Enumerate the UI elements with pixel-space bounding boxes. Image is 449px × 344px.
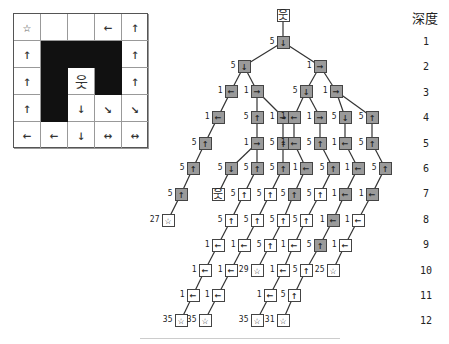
- arrow-icon: →: [254, 138, 261, 149]
- node-cost: 5: [159, 189, 173, 198]
- node-cost: 1: [272, 240, 286, 249]
- tree-node: ←: [352, 214, 365, 227]
- arrow-icon: ←: [228, 265, 235, 276]
- node-cost: 1: [222, 240, 236, 249]
- tree-node: ←: [212, 111, 225, 124]
- arrow-icon: ↓: [280, 37, 287, 48]
- arrow-icon: ←: [215, 290, 222, 301]
- node-cost: 5: [222, 189, 236, 198]
- node-cost: 1: [336, 215, 350, 224]
- node-cost: 5: [209, 215, 223, 224]
- node-cost: 29: [235, 265, 249, 274]
- node-cost: 1: [323, 138, 337, 147]
- node-cost: 5: [248, 240, 262, 249]
- arrow-icon: ↑: [228, 215, 235, 226]
- arrow-icon: ↓: [342, 112, 349, 123]
- goal-node: ☆: [199, 314, 212, 327]
- tree-node: →: [314, 60, 327, 73]
- node-cost: 1: [183, 265, 197, 274]
- node-cost: 31: [261, 315, 275, 324]
- node-cost: 5: [272, 189, 286, 198]
- node-cost: 5: [350, 138, 364, 147]
- node-cost: 1: [272, 138, 286, 147]
- node-cost: 1: [196, 240, 210, 249]
- arrow-icon: ↑: [241, 189, 248, 200]
- depth-label: 8: [412, 214, 440, 225]
- depth-label: 10: [412, 265, 440, 276]
- node-cost: 5: [248, 189, 262, 198]
- depth-label: 11: [412, 290, 440, 301]
- arrow-icon: ↑: [369, 138, 376, 149]
- arrow-icon: ↑: [202, 138, 209, 149]
- node-cost: 5: [363, 163, 377, 172]
- tree-node: ↑: [175, 188, 188, 201]
- node-cost: 5: [235, 215, 249, 224]
- node-cost: 1: [261, 265, 275, 274]
- tree-node: ←: [339, 239, 352, 252]
- arrow-icon: ↑: [369, 112, 376, 123]
- depth-label: 6: [412, 163, 440, 174]
- depth-label: 4: [412, 112, 440, 123]
- tree-node: ↑: [187, 162, 200, 175]
- arrow-icon: ←: [228, 86, 235, 97]
- arrow-icon: ↑: [303, 265, 310, 276]
- node-cost: 5: [284, 265, 298, 274]
- arrow-icon: ↓: [241, 61, 248, 72]
- node-cost: 1: [171, 290, 185, 299]
- arrow-icon: ←: [215, 112, 222, 123]
- arrow-icon: ↑: [190, 163, 197, 174]
- goal-node: ☆: [277, 314, 290, 327]
- node-cost: 1: [284, 163, 298, 172]
- node-cost: 1: [298, 112, 312, 121]
- arrow-icon: ↑: [382, 163, 389, 174]
- arrow-icon: ←: [202, 265, 209, 276]
- tree-node: ↓: [300, 85, 313, 98]
- tree-node: ↑: [366, 111, 379, 124]
- star-icon: ☆: [202, 315, 209, 326]
- node-cost: 5: [323, 112, 337, 121]
- arrow-icon: →: [333, 86, 340, 97]
- depth-label: 3: [412, 87, 440, 98]
- arrow-icon: →: [317, 61, 324, 72]
- arrow-icon: ←: [303, 163, 310, 174]
- tree-node: ↓: [277, 36, 290, 49]
- tree-node: ↑: [288, 289, 301, 302]
- star-icon: ☆: [254, 315, 261, 326]
- node-cost: 1: [323, 189, 337, 198]
- arrow-icon: ↑: [254, 112, 261, 123]
- node-cost: 1: [248, 290, 262, 299]
- tree-node: ↑: [199, 137, 212, 150]
- node-cost: 25: [311, 265, 325, 274]
- node-cost: 5: [183, 138, 197, 147]
- star-icon: ☆: [280, 315, 287, 326]
- node-cost: 5: [311, 163, 325, 172]
- node-cost: 1: [209, 86, 223, 95]
- node-cost: 5: [235, 112, 249, 121]
- node-cost: 35: [183, 315, 197, 324]
- node-cost: 1: [298, 61, 312, 70]
- start-node: 웃: [277, 9, 290, 22]
- arrow-icon: ←: [355, 215, 362, 226]
- node-cost: 5: [298, 189, 312, 198]
- tree-node: →: [251, 85, 264, 98]
- star-icon: ☆: [165, 215, 172, 226]
- depth-column-header: 深度: [412, 8, 438, 27]
- depth-label: 5: [412, 138, 440, 149]
- arrow-icon: ↑: [303, 215, 310, 226]
- node-cost: 5: [209, 163, 223, 172]
- node-cost: 1: [209, 265, 223, 274]
- arrow-icon: ←: [241, 240, 248, 251]
- node-cost: 1: [336, 163, 350, 172]
- tree-node: ↓: [238, 60, 251, 73]
- arrow-icon: ←: [291, 138, 298, 149]
- depth-label: 1: [412, 36, 440, 47]
- arrow-icon: ←: [369, 189, 376, 200]
- arrow-icon: ↑: [178, 189, 185, 200]
- arrow-icon: ←: [215, 240, 222, 251]
- node-cost: 35: [159, 315, 173, 324]
- depth-label: 9: [412, 239, 440, 250]
- arrow-icon: ↑: [291, 189, 298, 200]
- depth-label: 7: [412, 188, 440, 199]
- arrow-icon: ←: [355, 163, 362, 174]
- node-cost: 5: [284, 215, 298, 224]
